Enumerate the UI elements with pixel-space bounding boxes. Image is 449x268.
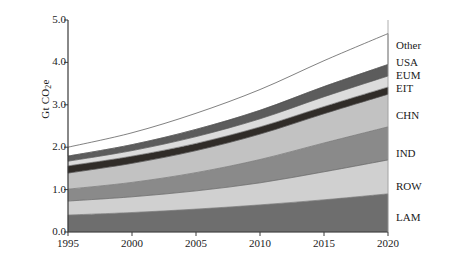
stacked-area-plot [0, 0, 449, 268]
legend-item-lam: LAM [396, 212, 420, 223]
legend-item-row: ROW [396, 181, 422, 192]
legend-item-eit: EIT [396, 83, 413, 94]
legend-item-eum: EUM [396, 70, 420, 81]
legend-item-other: Other [396, 40, 421, 51]
chart-container: Gt CO2e 0.01.02.03.04.05.0 1995200020052… [0, 0, 449, 268]
legend-item-usa: USA [396, 57, 418, 68]
legend-item-ind: IND [396, 148, 416, 159]
legend-item-chn: CHN [396, 110, 419, 121]
